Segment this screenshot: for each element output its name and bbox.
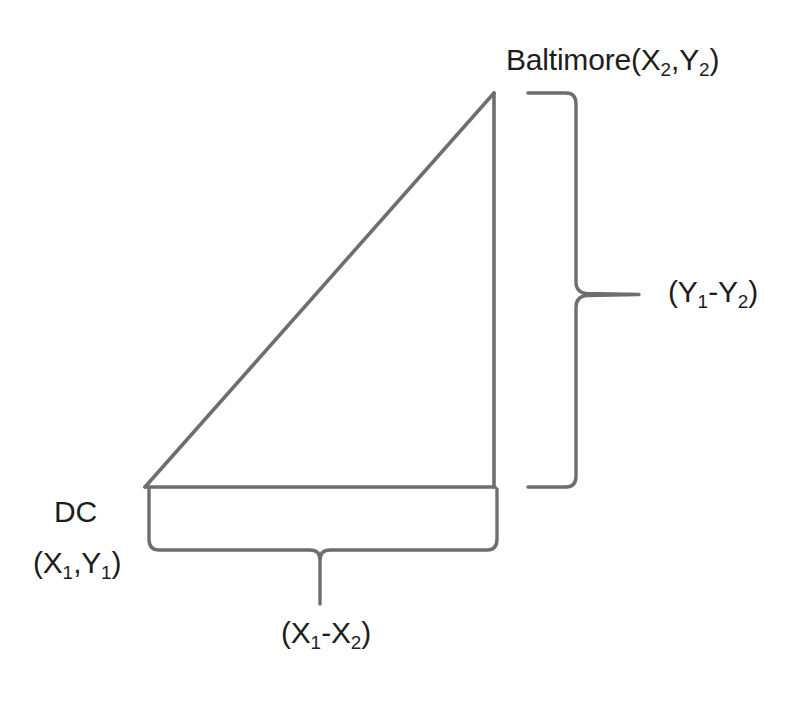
vertical-difference-subscript-2: 2 <box>738 291 749 312</box>
baltimore-coords-open: (X <box>631 43 661 76</box>
baltimore-coords-close: ) <box>710 43 720 76</box>
triangle-group <box>145 93 495 487</box>
dc-coordinates-label: (X1,Y1) <box>33 547 121 579</box>
horizontal-difference-minus: -X <box>321 616 351 649</box>
vertical-difference-close: ) <box>748 275 758 308</box>
dc-x-subscript: 1 <box>63 562 74 583</box>
dc-city-name-label: DC <box>54 496 97 528</box>
vertical-difference-open: (Y <box>668 275 698 308</box>
figure-canvas: Baltimore(X2,Y2) DC (X1,Y1) (Y1-Y2) (X1-… <box>0 0 802 705</box>
horizontal-difference-subscript-1: 1 <box>311 632 322 653</box>
baltimore-city-name: Baltimore <box>506 43 631 76</box>
baltimore-y-subscript: 2 <box>699 59 710 80</box>
horizontal-difference-label: (X1-X2) <box>281 617 371 649</box>
baltimore-x-subscript: 2 <box>661 59 672 80</box>
dc-coords-close: ) <box>112 546 122 579</box>
horizontal-difference-open: (X <box>281 616 311 649</box>
baltimore-coords-comma: ,Y <box>671 43 699 76</box>
horizontal-difference-subscript-2: 2 <box>351 632 362 653</box>
dc-y-subscript: 1 <box>101 562 112 583</box>
vertical-difference-label: (Y1-Y2) <box>668 276 758 308</box>
horizontal-difference-close: ) <box>361 616 371 649</box>
vertical-difference-minus: -Y <box>708 275 738 308</box>
baltimore-vertex-label: Baltimore(X2,Y2) <box>506 44 719 76</box>
horizontal-difference-brace <box>149 489 497 604</box>
dc-coords-comma: ,Y <box>73 546 101 579</box>
dc-coords-open: (X <box>33 546 63 579</box>
right-triangle-distance-diagram <box>0 0 802 705</box>
triangle-hypotenuse <box>145 93 494 487</box>
vertical-difference-brace <box>528 93 639 487</box>
vertical-difference-subscript-1: 1 <box>698 291 709 312</box>
